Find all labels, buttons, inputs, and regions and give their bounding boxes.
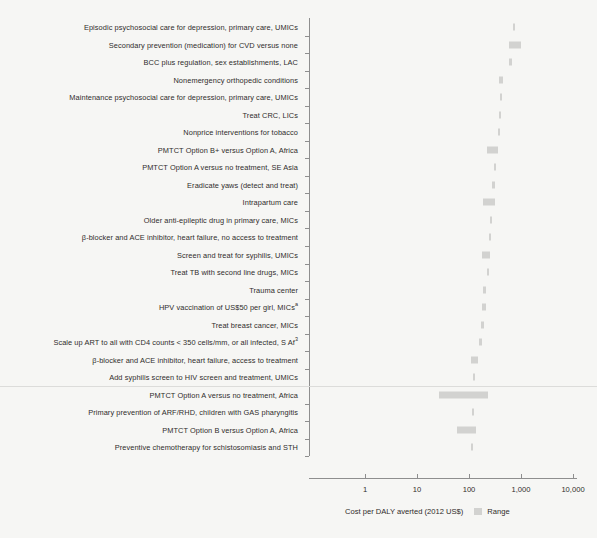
range-bar — [482, 251, 490, 258]
range-bar — [499, 111, 501, 118]
x-axis-tick-label: 1 — [363, 485, 367, 494]
range-bar — [513, 24, 515, 31]
range-bar — [457, 426, 476, 433]
range-bar — [471, 444, 473, 451]
range-bar — [499, 76, 504, 83]
x-axis-tick-label: 10,000 — [561, 485, 584, 494]
range-bar — [481, 321, 484, 328]
x-axis-title: Cost per DALY averted (2012 US$) — [345, 507, 463, 516]
range-bar — [509, 59, 511, 66]
x-axis-tick-label: 1,000 — [511, 485, 530, 494]
x-axis-tick-label: 100 — [463, 485, 476, 494]
range-bar — [487, 146, 498, 153]
x-axis-tick-label: 10 — [413, 485, 421, 494]
range-bar — [482, 304, 486, 311]
range-bar — [471, 356, 478, 363]
range-bar — [483, 286, 486, 293]
chart-figure: Episodic psychosocial care for depressio… — [0, 0, 597, 538]
plot-area — [0, 0, 597, 478]
range-bar — [479, 339, 482, 346]
range-bar — [473, 374, 475, 381]
x-axis-spine — [309, 478, 577, 479]
legend-swatch-range — [474, 508, 482, 515]
range-bar — [509, 41, 521, 48]
range-bar — [498, 129, 500, 136]
section-divider — [0, 386, 597, 387]
range-bar — [439, 391, 489, 398]
range-bar — [483, 199, 494, 206]
range-bar — [487, 269, 489, 276]
range-bar — [472, 409, 474, 416]
range-bar — [492, 181, 494, 188]
chart-legend: Cost per DALY averted (2012 US$) Range — [345, 507, 510, 516]
range-bar — [489, 234, 491, 241]
range-bar — [494, 164, 496, 171]
range-bar — [500, 94, 502, 101]
legend-label-range: Range — [487, 507, 509, 516]
range-bar — [490, 216, 492, 223]
